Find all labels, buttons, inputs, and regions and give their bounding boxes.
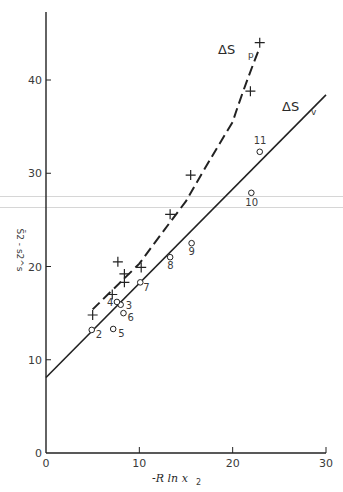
x-tick-label: 10: [132, 457, 146, 470]
data-point-circle: [121, 310, 127, 316]
y-tick-label: 30: [28, 167, 42, 180]
data-point-plus: [245, 86, 255, 96]
data-point-label: 8: [167, 260, 173, 271]
chart: 0102030010203040234567891011ΔSpΔSv-R ln …: [0, 0, 343, 492]
fit-curve-delta-sp: [93, 47, 260, 309]
y-tick-label: 10: [28, 354, 42, 367]
data-point-circle: [114, 299, 120, 305]
data-point-plus: [113, 257, 123, 267]
series-label-delta-sv-sub: v: [311, 107, 317, 117]
data-point-label: 6: [127, 312, 133, 323]
data-point-label: 2: [96, 329, 102, 340]
data-point-label: 7: [143, 282, 149, 293]
fit-line-delta-sv: [46, 95, 326, 378]
x-axis-label-sub: 2: [196, 478, 201, 487]
data-point-plus: [255, 38, 265, 48]
x-tick-label: 0: [43, 457, 50, 470]
data-point-label: 9: [189, 246, 195, 257]
y-axis-label: S̄2 - s2^s: [15, 228, 26, 271]
data-point-label: 10: [245, 197, 258, 208]
data-point-circle: [137, 280, 143, 286]
data-point-plus: [119, 277, 129, 287]
data-point-plus: [186, 170, 196, 180]
data-point-label: 5: [118, 328, 124, 339]
y-tick-label: 40: [28, 74, 42, 87]
data-point-circle: [167, 254, 173, 260]
data-point-circle: [110, 326, 116, 332]
x-axis-label: -R ln x: [152, 472, 189, 485]
data-point-circle: [89, 327, 95, 333]
x-tick-label: 30: [319, 457, 333, 470]
series-label-delta-sv: ΔS: [282, 99, 299, 114]
series-label-delta-sp-sub: p: [248, 50, 254, 60]
data-point-circle: [257, 149, 263, 155]
x-tick-label: 20: [226, 457, 240, 470]
y-tick-label: 20: [28, 261, 42, 274]
data-point-label: 3: [126, 300, 132, 311]
data-point-plus: [88, 310, 98, 320]
y-tick-label: 0: [35, 447, 42, 460]
data-point-label: 11: [254, 135, 267, 146]
data-point-circle: [249, 190, 255, 196]
data-point-circle: [189, 240, 195, 246]
series-label-delta-sp: ΔS: [218, 42, 235, 57]
